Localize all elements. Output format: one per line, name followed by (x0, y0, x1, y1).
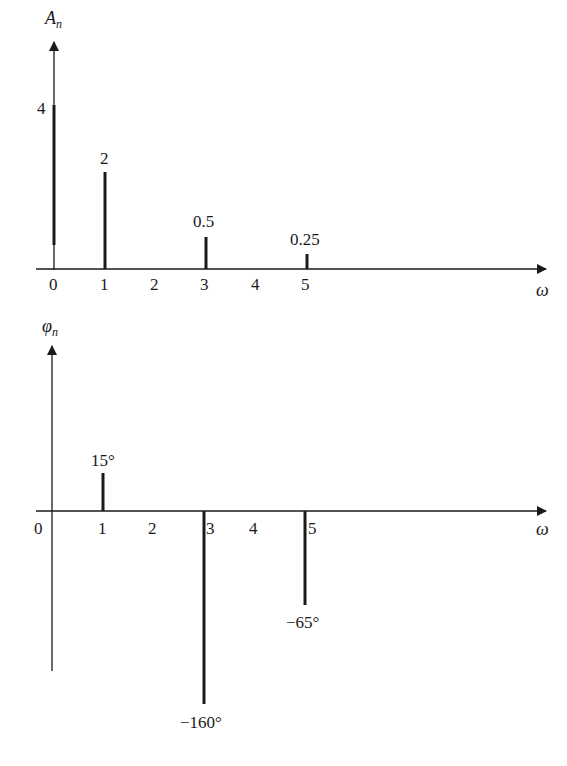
tick-label: 2 (150, 275, 159, 294)
tick-label: 4 (251, 275, 260, 294)
phase-x-tick-labels: 0 1 2 3 4 5 (34, 519, 317, 538)
amplitude-x-tick-labels: 0 1 2 3 4 5 (49, 275, 310, 294)
tick-label: 5 (308, 519, 317, 538)
tick-label: 3 (206, 519, 215, 538)
amplitude-label-w5: 0.25 (290, 230, 320, 249)
tick-label: 1 (98, 519, 107, 538)
phase-label-w5: −65° (286, 613, 319, 632)
tick-label: 2 (148, 519, 157, 538)
spectrum-figure: An ω 0 1 2 3 4 5 4 2 0.5 0.25 φn ω (0, 0, 567, 766)
tick-label: 0 (49, 275, 58, 294)
tick-label: 5 (301, 275, 310, 294)
amplitude-y-axis-title: An (44, 8, 62, 31)
phase-label-w3: −160° (180, 713, 222, 732)
amplitude-x-axis-title: ω (536, 280, 549, 300)
phase-label-w1: 15° (91, 451, 115, 470)
tick-label: 0 (34, 519, 43, 538)
amplitude-spectrum-plot: An ω 0 1 2 3 4 5 4 2 0.5 0.25 (36, 8, 549, 300)
phase-x-axis-title: ω (536, 519, 549, 539)
phase-y-axis-title: φn (42, 316, 58, 339)
phase-spectrum-plot: φn ω 0 1 2 3 4 5 15° −160° −65° (34, 316, 549, 732)
tick-label: 3 (200, 275, 209, 294)
amplitude-label-w0: 4 (37, 99, 46, 118)
amplitude-label-w1: 2 (100, 149, 109, 168)
tick-label: 4 (249, 519, 258, 538)
tick-label: 1 (100, 275, 109, 294)
amplitude-label-w3: 0.5 (193, 212, 214, 231)
